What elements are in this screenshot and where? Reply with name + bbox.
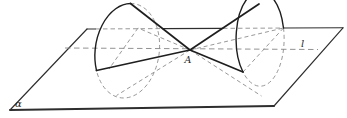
diagram-svg: A l α xyxy=(0,0,347,118)
plane-label: α xyxy=(15,98,22,109)
left-cone-outline xyxy=(95,4,190,71)
left-cone-hidden-generator-lower xyxy=(117,50,191,96)
plane-top-edge-visible xyxy=(87,28,343,29)
apex-label: A xyxy=(184,54,192,65)
right-circle-plane-chord xyxy=(243,28,284,72)
plane-right-edge xyxy=(274,28,343,106)
right-cone-lower-generator xyxy=(190,50,243,72)
left-cone-upper-generator xyxy=(131,4,191,51)
right-cone-outline xyxy=(190,0,284,72)
cone-plane-diagram: A l α xyxy=(0,0,347,118)
right-cone-hidden-generator-lower xyxy=(190,50,262,96)
right-cone-rim-back-arc xyxy=(243,28,284,86)
left-cone-hidden-lines xyxy=(97,3,191,97)
left-cone-hidden-generator-upper xyxy=(138,28,190,50)
axis-line-label: l xyxy=(301,38,304,49)
right-cone-upper-generator xyxy=(190,4,259,50)
plane-bottom-edge xyxy=(10,106,274,110)
left-cone-lower-generator xyxy=(97,50,191,71)
left-cone-rim-front-arc xyxy=(95,4,131,71)
right-cone-hidden-lines xyxy=(190,28,284,96)
